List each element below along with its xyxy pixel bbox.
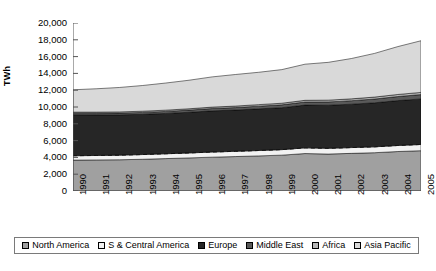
x-tick-label: 1991 bbox=[100, 174, 111, 195]
swatch-s-central-america-icon bbox=[98, 242, 105, 249]
legend-label: Middle East bbox=[256, 241, 303, 250]
x-tick-label: 1999 bbox=[286, 174, 297, 195]
legend-label: Europe bbox=[208, 241, 237, 250]
x-tick-label: 1997 bbox=[239, 174, 250, 195]
legend-item: Middle East bbox=[246, 241, 303, 250]
legend-label: Asia Pacific bbox=[364, 241, 411, 250]
x-tick-label: 2000 bbox=[309, 174, 320, 195]
legend-item: S & Central America bbox=[98, 241, 189, 250]
x-tick-label: 1992 bbox=[123, 174, 134, 195]
swatch-africa-icon bbox=[312, 242, 319, 249]
x-tick-label: 2005 bbox=[425, 174, 436, 195]
x-tick-label: 1998 bbox=[263, 174, 274, 195]
swatch-asia-pacific-icon bbox=[354, 242, 361, 249]
swatch-middle-east-icon bbox=[246, 242, 253, 249]
legend-item: Europe bbox=[198, 241, 237, 250]
x-tick-label: 1994 bbox=[170, 174, 181, 195]
legend-label: North America bbox=[32, 241, 89, 250]
x-tick-label: 2003 bbox=[379, 174, 390, 195]
legend-item: Africa bbox=[312, 241, 345, 250]
legend-item: North America bbox=[22, 241, 89, 250]
x-tick-label: 1990 bbox=[77, 174, 88, 195]
x-tick-label: 1995 bbox=[193, 174, 204, 195]
legend-label: S & Central America bbox=[108, 241, 189, 250]
x-tick-label: 2001 bbox=[332, 174, 343, 195]
x-tick-label: 1996 bbox=[216, 174, 227, 195]
swatch-europe-icon bbox=[198, 242, 205, 249]
legend-label: Africa bbox=[322, 241, 345, 250]
x-tick-label: 1993 bbox=[147, 174, 158, 195]
x-tick-label: 2002 bbox=[355, 174, 366, 195]
chart-legend: North AmericaS & Central AmericaEuropeMi… bbox=[14, 237, 419, 254]
x-tick-label: 2004 bbox=[402, 174, 413, 195]
legend-item: Asia Pacific bbox=[354, 241, 411, 250]
swatch-north-america-icon bbox=[22, 242, 29, 249]
